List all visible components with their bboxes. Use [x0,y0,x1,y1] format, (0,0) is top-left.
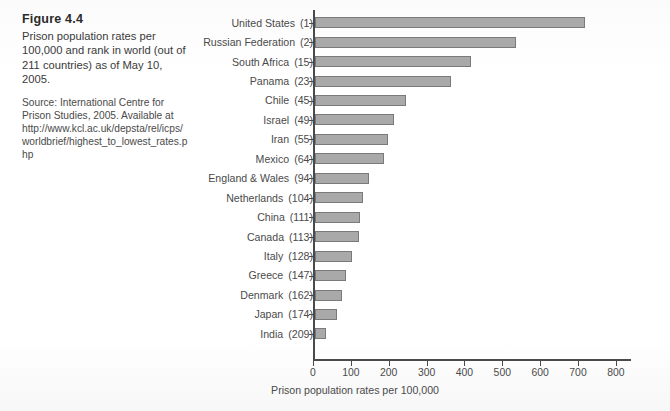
bar-row[interactable] [315,32,516,51]
country-label: England & Wales [208,172,289,184]
bar[interactable] [315,231,359,242]
x-axis-tick [616,361,617,366]
caption-block: Figure 4.4 Prison population rates per 1… [22,12,190,162]
bar-row[interactable] [315,110,394,129]
country-label: Italy [264,250,283,262]
x-axis-tick [313,361,314,366]
x-axis-tick [502,361,503,366]
bar-row[interactable] [315,91,406,110]
country-label: South Africa [232,56,289,68]
figure-caption: Prison population rates per 100,000 and … [22,29,190,87]
bar[interactable] [315,76,451,87]
bar-row[interactable] [315,285,342,304]
bar-row[interactable] [315,130,388,149]
bar[interactable] [315,37,516,48]
x-axis-tick [540,361,541,366]
y-axis-label-row: Japan(174) [196,305,313,324]
bar[interactable] [315,212,360,223]
figure-number: Figure 4.4 [22,12,190,26]
x-axis-tick-label: 0 [310,367,316,378]
x-axis-tick [351,361,352,366]
y-axis-tick [309,159,313,160]
x-axis-tick-label: 500 [494,367,511,378]
y-axis-tick [309,295,313,296]
x-axis-tick [427,361,428,366]
country-label: Israel [263,114,289,126]
bar[interactable] [315,328,326,339]
bar[interactable] [315,290,342,301]
y-axis-tick [309,237,313,238]
y-axis-tick [309,314,313,315]
y-axis-label-row: India(209) [196,324,313,343]
y-axis-tick [309,120,313,121]
bar-row[interactable] [315,266,346,285]
x-axis-tick-label: 100 [342,367,359,378]
y-axis-tick [309,139,313,140]
y-axis-tick [309,81,313,82]
bar[interactable] [315,17,585,28]
x-axis-tick-label: 200 [380,367,397,378]
y-axis-tick [309,42,313,43]
y-axis-label-row: Israel(49) [196,110,313,129]
y-axis-tick [309,198,313,199]
y-axis-tick [309,178,313,179]
y-axis-tick [309,217,313,218]
x-axis-title: Prison population rates per 100,000 [271,384,439,396]
bar[interactable] [315,153,384,164]
y-axis-tick [309,23,313,24]
y-axis-label-row: Iran(55) [196,130,313,149]
bar-row[interactable] [315,305,337,324]
y-axis-tick [309,334,313,335]
bar-chart: United States(1)Russian Federation(2)Sou… [196,10,656,400]
figure-source: Source: International Centre for Prison … [22,96,190,162]
y-axis-label-row: Mexico(64) [196,149,313,168]
y-axis-label-row: Panama(23) [196,71,313,90]
y-axis-label-row: United States(1) [196,13,313,32]
y-axis-label-row: Chile(45) [196,91,313,110]
bar-row[interactable] [315,169,369,188]
country-label: India [260,328,283,340]
country-label: Netherlands [226,192,283,204]
bar-row[interactable] [315,246,352,265]
country-label: United States [231,17,295,29]
y-axis-label-row: Italy(128) [196,246,313,265]
bar[interactable] [315,270,346,281]
bar-row[interactable] [315,227,359,246]
bar-row[interactable] [315,324,326,343]
x-axis-tick-label: 300 [418,367,435,378]
bar[interactable] [315,173,369,184]
bar[interactable] [315,192,363,203]
bar[interactable] [315,251,352,262]
x-axis-tick-label: 700 [569,367,586,378]
bar[interactable] [315,56,471,67]
country-label: Greece [249,269,284,281]
y-axis-label-row: South Africa(15) [196,52,313,71]
y-axis-label-row: Greece(147) [196,266,313,285]
bar-row[interactable] [315,149,384,168]
bar-row[interactable] [315,71,451,90]
x-axis-tick-label: 400 [456,367,473,378]
y-axis-label-row: Netherlands(104) [196,188,313,207]
country-label: Japan [254,308,283,320]
figure-page: Figure 4.4 Prison population rates per 1… [0,0,670,411]
country-label: Canada [247,231,284,243]
country-label: Denmark [240,289,283,301]
country-label: Panama [250,75,289,87]
x-axis-line [313,359,631,361]
bar[interactable] [315,114,394,125]
country-label: China [257,211,285,223]
country-label: Russian Federation [203,36,295,48]
y-axis-tick [309,101,313,102]
bar-row[interactable] [315,52,471,71]
country-label: Chile [265,94,289,106]
bar[interactable] [315,95,406,106]
bar-row[interactable] [315,208,360,227]
bar[interactable] [315,309,337,320]
x-axis-tick-label: 800 [607,367,624,378]
bar[interactable] [315,134,388,145]
country-label: Mexico [256,153,290,165]
plot-area: 0100200300400500600700800 [313,10,643,360]
y-axis-tick [309,276,313,277]
bar-row[interactable] [315,13,585,32]
bar-row[interactable] [315,188,363,207]
